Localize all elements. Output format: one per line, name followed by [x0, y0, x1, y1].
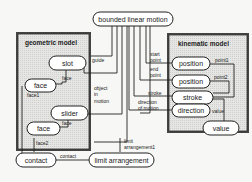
- guide-label: guide: [92, 57, 104, 63]
- face1-label: face1: [27, 92, 39, 98]
- stroke-label: stroke: [148, 90, 162, 96]
- face2-label: face2: [36, 140, 48, 146]
- of-motion-label: of motion: [138, 105, 159, 111]
- svg-text:direction: direction: [178, 107, 205, 114]
- arrangement1-label: arrangement1: [124, 144, 155, 150]
- geometric-model-title: geometric model: [25, 39, 77, 47]
- kinematic-model-title: kinematic model: [178, 40, 229, 47]
- in-label: in: [94, 91, 98, 97]
- contact-label: contact: [60, 153, 77, 159]
- direction-node[interactable]: direction: [172, 104, 210, 117]
- svg-text:face: face: [34, 82, 47, 89]
- svg-text:bounded linear motion: bounded linear motion: [98, 16, 167, 23]
- face1-node[interactable]: face: [25, 79, 56, 92]
- svg-text:value: value: [213, 125, 230, 132]
- svg-text:slider: slider: [61, 110, 78, 117]
- svg-text:position: position: [179, 78, 203, 86]
- contact-node[interactable]: contact: [16, 153, 56, 167]
- svg-text:limit arrangement: limit arrangement: [94, 157, 148, 165]
- end-point-label: point: [150, 72, 161, 78]
- face2-node[interactable]: face: [27, 122, 60, 135]
- svg-text:position: position: [179, 60, 203, 68]
- limit-arrangement-node[interactable]: limit arrangement: [89, 153, 154, 167]
- point1-label: point1: [215, 57, 229, 63]
- diagram-canvas: geometric model kinematic model: [0, 0, 252, 182]
- value-label: value: [212, 108, 224, 114]
- value-node[interactable]: value: [203, 121, 239, 135]
- svg-text:stroke: stroke: [183, 94, 202, 101]
- point2-label: point2: [214, 74, 228, 80]
- slider-node[interactable]: slider: [51, 106, 88, 120]
- svg-text:slot: slot: [62, 60, 73, 67]
- slider-face-label: face: [62, 120, 72, 126]
- slot-node[interactable]: slot: [49, 56, 86, 70]
- stroke-node[interactable]: stroke: [172, 91, 213, 104]
- position1-node[interactable]: position: [172, 57, 210, 70]
- bounded-linear-motion-node[interactable]: bounded linear motion: [93, 12, 173, 26]
- slot-face-label: face: [62, 75, 72, 81]
- motion-label: motion: [94, 98, 109, 104]
- position2-node[interactable]: position: [172, 75, 210, 88]
- start-point-label: point: [150, 57, 161, 63]
- svg-text:contact: contact: [25, 157, 48, 164]
- svg-text:face: face: [37, 125, 50, 132]
